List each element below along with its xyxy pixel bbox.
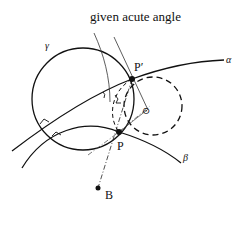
geometry-diagram: given acute angle γ α β P′ P B ⊙ — [0, 0, 244, 231]
label-beta: β — [182, 152, 188, 163]
curve-alpha — [12, 60, 224, 151]
label-p: P — [117, 139, 124, 153]
point-p-prime — [129, 76, 135, 82]
caption-given-acute-angle: given acute angle — [90, 9, 181, 24]
label-p-prime: P′ — [134, 60, 144, 74]
point-p — [116, 129, 122, 135]
point-b — [96, 186, 101, 191]
acute-angle-arc — [94, 33, 110, 102]
angle-mark-rho — [103, 92, 105, 98]
label-b: B — [105, 188, 113, 202]
right-angle-mark-1 — [40, 119, 49, 124]
label-alpha: α — [226, 54, 232, 65]
dashed-circle — [124, 77, 182, 135]
tangent-at-p — [88, 132, 119, 155]
label-gamma: γ — [45, 40, 50, 51]
circled-point-mark: ⊙ — [142, 105, 150, 116]
right-angle-mark-3 — [115, 95, 121, 103]
